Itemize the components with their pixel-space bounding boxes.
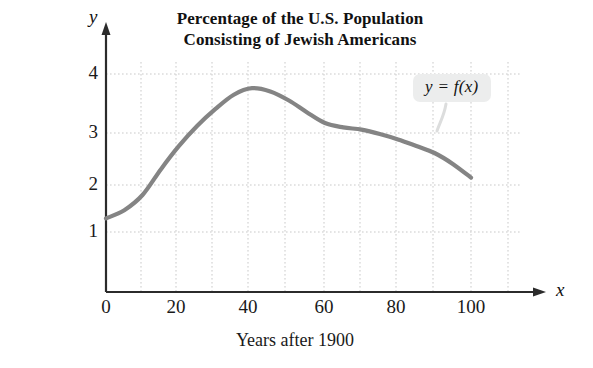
chart-figure: Percentage of the U.S. Population Consis…: [0, 0, 593, 368]
x-axis-title: Years after 1900: [170, 330, 420, 351]
x-tick-label-80: 80: [373, 296, 419, 318]
y-tick-label-3: 3: [72, 121, 98, 143]
y-tick-label-4: 4: [72, 62, 98, 84]
x-tick-label-0: 0: [83, 296, 129, 318]
function-curve: [106, 88, 471, 218]
x-tick-label-100: 100: [448, 296, 494, 318]
callout-leader-line: [437, 104, 446, 131]
function-callout-label: y = f(x): [413, 74, 491, 102]
x-tick-label-20: 20: [153, 296, 199, 318]
x-tick-label-40: 40: [225, 296, 271, 318]
y-axis-arrowhead: [102, 22, 111, 35]
x-axis-variable-label: x: [556, 279, 564, 301]
y-tick-label-1: 1: [72, 220, 98, 242]
x-axis-arrowhead: [533, 288, 546, 297]
x-tick-label-60: 60: [301, 296, 347, 318]
y-tick-label-2: 2: [72, 173, 98, 195]
y-axis-variable-label: y: [89, 6, 97, 28]
